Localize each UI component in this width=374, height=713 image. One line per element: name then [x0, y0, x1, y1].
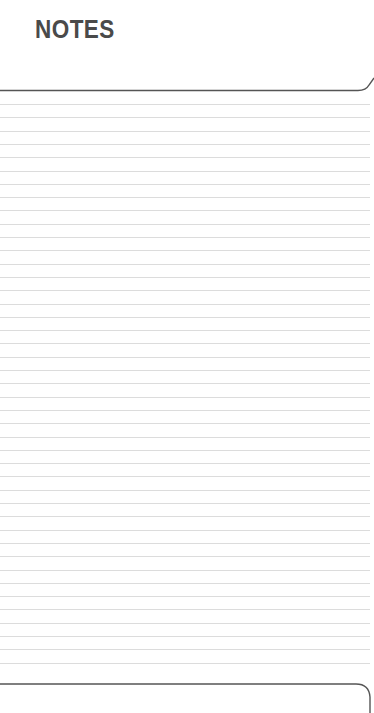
ruled-line — [0, 609, 370, 610]
ruled-line — [0, 530, 370, 531]
ruled-line — [0, 197, 370, 198]
ruled-line — [0, 277, 370, 278]
ruled-line — [0, 556, 370, 557]
ruled-line — [0, 237, 370, 238]
ruled-line — [0, 104, 370, 105]
top-border-line — [0, 78, 374, 91]
ruled-line — [0, 543, 370, 544]
ruled-line — [0, 357, 370, 358]
ruled-line — [0, 423, 370, 424]
ruled-line — [0, 290, 370, 291]
ruled-line — [0, 397, 370, 398]
ruled-line — [0, 144, 370, 145]
ruled-line — [0, 117, 370, 118]
ruled-line — [0, 570, 370, 571]
ruled-line — [0, 131, 370, 132]
ruled-line — [0, 264, 370, 265]
bottom-border-line — [0, 684, 370, 713]
ruled-line — [0, 184, 370, 185]
ruled-line — [0, 503, 370, 504]
ruled-line — [0, 596, 370, 597]
ruled-line — [0, 383, 370, 384]
ruled-line — [0, 317, 370, 318]
ruled-line — [0, 636, 370, 637]
ruled-line — [0, 649, 370, 650]
ruled-line — [0, 250, 370, 251]
ruled-line — [0, 476, 370, 477]
ruled-line — [0, 343, 370, 344]
ruled-line — [0, 516, 370, 517]
ruled-line — [0, 450, 370, 451]
ruled-line — [0, 304, 370, 305]
ruled-line — [0, 410, 370, 411]
ruled-line — [0, 330, 370, 331]
ruled-line — [0, 210, 370, 211]
ruled-line — [0, 370, 370, 371]
ruled-line — [0, 583, 370, 584]
ruled-line — [0, 157, 370, 158]
ruled-line — [0, 623, 370, 624]
ruled-line — [0, 171, 370, 172]
ruled-line — [0, 437, 370, 438]
ruled-line — [0, 663, 370, 664]
ruled-line — [0, 224, 370, 225]
ruled-line — [0, 463, 370, 464]
ruled-line — [0, 490, 370, 491]
